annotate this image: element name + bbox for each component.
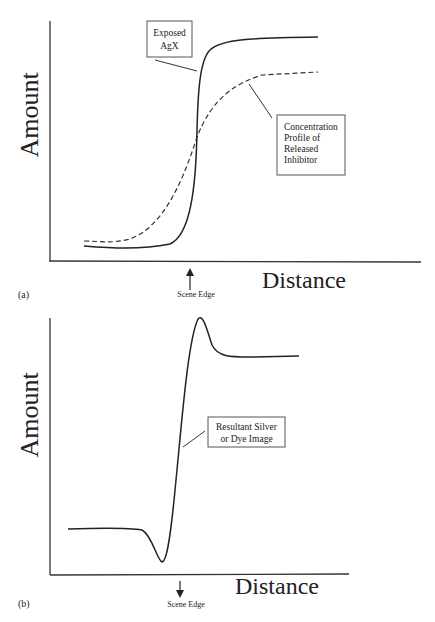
callout-text-line1-b: Resultant Silver (216, 422, 278, 432)
figure: Amount Distance Exposed AgX Concentratio… (0, 0, 435, 622)
panel-label-b: (b) (18, 598, 30, 610)
callout-leader-exposed-agx (155, 60, 197, 71)
x-axis-label-a: Distance (262, 267, 346, 293)
panel-a: Amount Distance Exposed AgX Concentratio… (15, 21, 421, 301)
callout-text-exposed: Exposed (153, 28, 186, 38)
panel-label-a: (a) (18, 289, 29, 301)
scene-edge-label-b: Scene Edge (167, 600, 205, 609)
callout-text-line4: Inhibitor (284, 155, 318, 165)
callout-leader-resultant (183, 431, 205, 447)
callout-text-line3: Released (284, 144, 319, 154)
callout-box-exposed-agx (147, 21, 192, 57)
x-axis-a (49, 261, 421, 262)
y-axis-label-b: Amount (15, 372, 44, 458)
callout-text-line2: Profile of (284, 133, 321, 143)
callout-text-agx: AgX (160, 41, 179, 51)
scene-edge-label-a: Scene Edge (177, 290, 215, 299)
callout-text-line1: Concentration (284, 122, 338, 132)
callout-text-line2-b: or Dye Image (220, 434, 272, 444)
panel-b: Amount Distance Resultant Silver or Dye … (15, 318, 349, 610)
arrow-head-down-icon (176, 590, 184, 598)
y-axis-label-a: Amount (15, 72, 44, 158)
arrow-head-up-icon (186, 268, 194, 276)
callout-leader-inhibitor (249, 84, 272, 118)
x-axis-label-b: Distance (235, 573, 319, 599)
